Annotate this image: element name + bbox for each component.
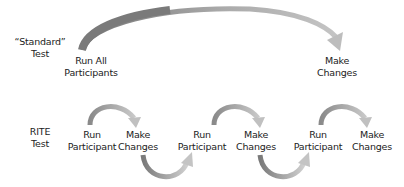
standard-flow-arrow-icon: [82, 9, 343, 51]
rite-top-arc-icon: [321, 107, 372, 128]
step-run-participant: Run Participant: [68, 129, 117, 153]
rite-bottom-arc-icon: [260, 152, 310, 177]
rite-top-arc-icon: [214, 107, 265, 128]
step-make-changes: Make Changes: [352, 129, 392, 153]
arrows-layer: [0, 0, 404, 187]
rite-test-label: RITE Test: [30, 126, 50, 150]
step-make-changes: Make Changes: [317, 55, 357, 79]
step-run-all-participants: Run All Participants: [64, 55, 117, 79]
step-run-participant: Run Participant: [178, 129, 227, 153]
step-run-participant: Run Participant: [294, 129, 343, 153]
step-make-changes: Make Changes: [118, 129, 158, 153]
rite-top-arc-icon: [90, 107, 141, 128]
step-make-changes: Make Changes: [236, 129, 276, 153]
standard-test-label: “Standard” Test: [14, 36, 65, 60]
rite-bottom-arc-icon: [143, 152, 193, 177]
